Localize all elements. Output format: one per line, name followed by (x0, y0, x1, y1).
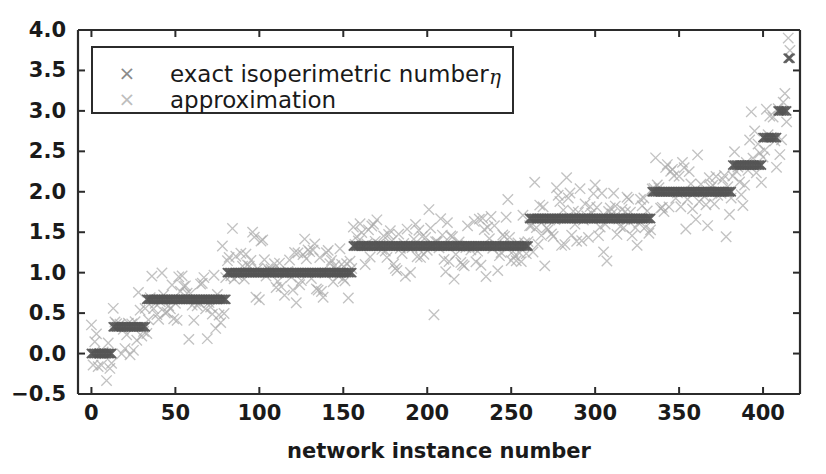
y-tick-label: 2.5 (29, 139, 66, 163)
x-axis-label: network instance number (287, 439, 592, 463)
x-tick-label: 400 (741, 401, 785, 425)
legend-marker-exact-icon: × (119, 61, 136, 85)
y-tick-label: 3.0 (29, 99, 66, 123)
legend-label-approximation: approximation (170, 87, 336, 113)
y-tick-label: 3.5 (29, 58, 66, 82)
y-tick-label: −0.5 (11, 382, 66, 406)
x-tick-label: 250 (489, 401, 533, 425)
x-tick-label: 100 (237, 401, 281, 425)
legend-eta-symbol: η (489, 65, 501, 89)
x-tick-label: 0 (84, 401, 99, 425)
x-tick-label: 50 (161, 401, 190, 425)
y-tick-label: 2.0 (29, 180, 66, 204)
y-tick-label: 4.0 (29, 18, 66, 42)
y-tick-label: 0.5 (29, 301, 66, 325)
x-tick-label: 200 (405, 401, 449, 425)
legend: × exact isoperimetric number η × approxi… (92, 47, 513, 113)
x-tick-label: 150 (321, 401, 365, 425)
legend-marker-approximation-icon: × (119, 87, 136, 111)
scatter-plot: 050100150200250300350400−0.50.00.51.01.5… (0, 0, 826, 474)
chart-figure: 050100150200250300350400−0.50.00.51.01.5… (0, 0, 826, 474)
y-tick-label: 0.0 (29, 342, 66, 366)
y-tick-label: 1.5 (29, 220, 66, 244)
x-tick-label: 350 (657, 401, 701, 425)
y-tick-label: 1.0 (29, 261, 66, 285)
x-tick-label: 300 (573, 401, 617, 425)
legend-label-exact: exact isoperimetric number (170, 61, 489, 87)
